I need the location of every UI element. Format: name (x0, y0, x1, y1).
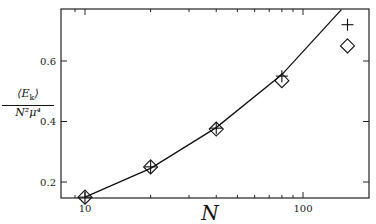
svg-text:100: 100 (293, 203, 312, 214)
x-axis-label: N (200, 201, 220, 224)
diamond-marker (340, 39, 354, 53)
tick-labels: 101000.20.40.6 (40, 56, 312, 215)
y-axis-label: ⟨Ek⟩ N²μ⁴ (2, 88, 54, 119)
svg-text:0.6: 0.6 (40, 56, 56, 67)
chart-plot: 101000.20.40.6 N (0, 0, 376, 224)
plot-frame (61, 9, 369, 198)
svg-text:0.2: 0.2 (40, 177, 56, 188)
axis-ticks (61, 9, 369, 198)
data-markers (78, 19, 354, 204)
y-label-denominator: N²μ⁴ (2, 106, 54, 119)
y-label-numerator: ⟨Ek⟩ (2, 88, 54, 106)
fit-curve (85, 10, 341, 198)
